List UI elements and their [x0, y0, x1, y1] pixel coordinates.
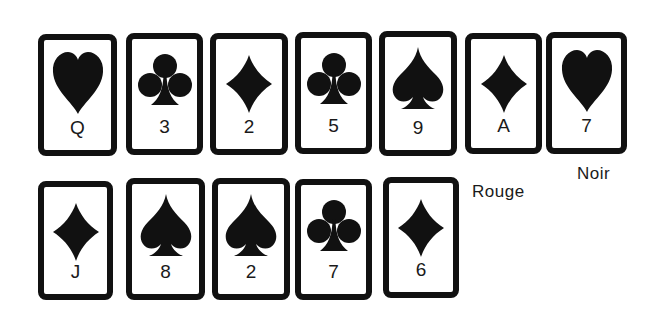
card-rank: 7 [301, 262, 366, 282]
diamond-icon [221, 47, 277, 117]
heart-icon [559, 46, 615, 116]
diamond-icon [393, 191, 449, 261]
card-rank: 7 [552, 116, 621, 136]
card-rank: Q [44, 118, 111, 138]
heart-icon [50, 48, 106, 118]
card-3-clubs[interactable]: 3 [126, 33, 203, 155]
rouge-label: Rouge [472, 182, 525, 202]
card-rank: 5 [301, 116, 366, 136]
card-a-diamonds[interactable]: A [465, 33, 542, 154]
spade-icon [390, 45, 446, 115]
card-rank: 2 [218, 262, 284, 282]
spade-icon [138, 192, 194, 262]
card-2-spades[interactable]: 2 [212, 178, 290, 300]
card-rank: 2 [216, 117, 282, 137]
club-icon [137, 47, 193, 117]
card-9-spades[interactable]: 9 [379, 31, 457, 156]
card-rank: 6 [389, 260, 453, 280]
card-q-hearts[interactable]: Q [38, 34, 117, 156]
card-2-diamonds[interactable]: 2 [210, 33, 288, 155]
club-icon [306, 193, 362, 263]
club-icon [306, 46, 362, 116]
noir-label: Noir [577, 164, 610, 184]
card-5-clubs[interactable]: 5 [295, 32, 372, 154]
card-rank: 9 [385, 118, 451, 138]
spade-icon [223, 192, 279, 262]
card-7-hearts[interactable]: 7 [546, 32, 627, 154]
card-j-diamonds[interactable]: J [38, 181, 113, 300]
diamond-icon [48, 195, 104, 265]
card-rank: A [471, 116, 536, 136]
card-rank: J [44, 262, 107, 282]
card-8-spades[interactable]: 8 [126, 178, 205, 300]
card-rank: 3 [132, 117, 197, 137]
card-6-diamonds[interactable]: 6 [383, 177, 459, 298]
card-7-clubs[interactable]: 7 [295, 179, 372, 300]
card-rank: 8 [132, 262, 199, 282]
diamond-icon [476, 47, 532, 117]
